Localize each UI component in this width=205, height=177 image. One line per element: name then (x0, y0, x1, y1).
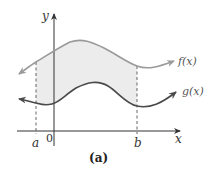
y-axis-label: y (41, 9, 49, 23)
area-between-curves-diagram: y x 0 a b f(x) g(x) (a) (0, 0, 205, 177)
origin-label: 0 (46, 132, 53, 145)
bound-b-label: b (134, 136, 142, 150)
bound-a-label: a (32, 136, 39, 150)
figure-caption: (a) (89, 151, 108, 165)
curve-g-label: g(x) (182, 85, 204, 98)
curve-f-label: f(x) (177, 55, 197, 68)
x-axis-label: x (175, 132, 182, 146)
